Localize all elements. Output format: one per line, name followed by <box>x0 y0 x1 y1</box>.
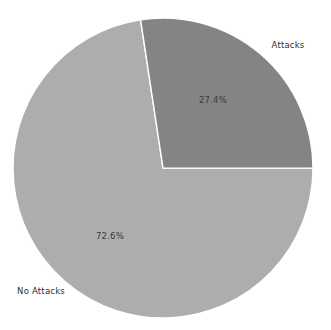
pie-chart-figure: 27.4% 72.6% Attacks No Attacks <box>0 0 331 330</box>
pie-slice-attacks[interactable] <box>141 18 313 168</box>
pie-chart-canvas <box>0 0 331 330</box>
